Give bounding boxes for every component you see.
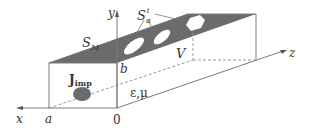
- b-label: b: [120, 62, 128, 76]
- y-axis-label: y: [107, 6, 115, 20]
- x-axis-label: x: [16, 112, 23, 126]
- origin-label: 0: [113, 113, 121, 127]
- volume-label: V: [176, 46, 187, 61]
- z-arrow-icon: [280, 50, 287, 54]
- z-axis-label: z: [288, 46, 296, 60]
- surface-aperture-label: Sai: [137, 6, 151, 25]
- waveguide-diagram: x a 0 y b z SM Sai V Jimp ε,μ: [0, 0, 309, 128]
- diagram-svg: x a 0 y b z SM Sai V Jimp ε,μ: [0, 0, 309, 128]
- medium-label: ε,μ: [130, 86, 148, 100]
- source-current: [73, 87, 91, 101]
- a-label: a: [45, 112, 52, 126]
- x-arrow-icon: [16, 106, 23, 110]
- y-arrow-icon: [115, 10, 119, 17]
